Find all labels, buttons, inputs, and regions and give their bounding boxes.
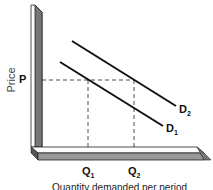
x-axis-label: Quantity demanded per period xyxy=(52,182,187,190)
y-axis-label: Price xyxy=(5,65,17,95)
demand-curve-d1 xyxy=(60,62,163,126)
q1-marker: Q1 xyxy=(82,165,94,179)
q2-marker: Q2 xyxy=(128,165,140,179)
x-axis-bar xyxy=(31,147,211,160)
d2-label: D2 xyxy=(179,103,191,117)
guide-lines xyxy=(42,80,134,147)
d1-label: D1 xyxy=(166,122,178,136)
demand-diagram xyxy=(0,0,213,190)
price-marker: P xyxy=(19,73,26,85)
y-axis-bar xyxy=(31,5,42,147)
